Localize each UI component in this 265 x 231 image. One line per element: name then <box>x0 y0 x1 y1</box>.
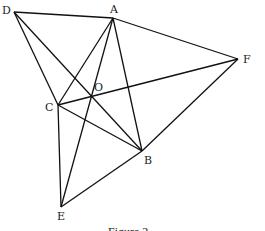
point-labels: DAFCOBE <box>2 3 251 223</box>
segment-da <box>14 12 113 18</box>
segment-fb <box>142 59 238 151</box>
point-label-d: D <box>2 4 11 17</box>
figure-caption: Figure 2 <box>108 225 148 231</box>
point-label-o: O <box>94 81 103 94</box>
segment-cf <box>58 59 238 105</box>
point-label-b: B <box>144 154 152 167</box>
point-label-e: E <box>57 210 65 223</box>
segment-cb <box>58 105 142 151</box>
segment-cd <box>14 12 58 105</box>
point-label-a: A <box>109 3 119 16</box>
segment-be <box>61 151 142 207</box>
segment-af <box>113 18 238 59</box>
point-label-f: F <box>243 53 251 66</box>
segment-db <box>14 12 142 151</box>
segment-ac <box>58 18 113 105</box>
geometry-figure: DAFCOBE Figure 2 <box>0 0 265 231</box>
point-label-c: C <box>45 101 53 114</box>
segment-ec <box>58 105 61 207</box>
segment-ae <box>61 18 113 207</box>
